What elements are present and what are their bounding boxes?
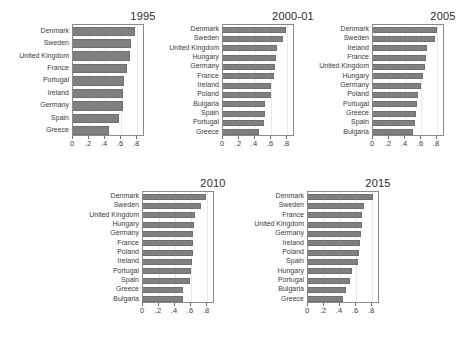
bar bbox=[223, 64, 275, 70]
y-axis-label: Hungary bbox=[72, 219, 139, 228]
y-axis-label: France bbox=[302, 52, 369, 61]
y-axis-label: Bulgaria bbox=[72, 294, 139, 303]
bar-row bbox=[223, 62, 293, 71]
bar bbox=[308, 203, 364, 209]
x-axis-tick-label: .6 bbox=[187, 307, 193, 315]
bar-row bbox=[373, 118, 443, 127]
x-axis-tick-label: .6 bbox=[117, 140, 123, 148]
x-axis-tick-label: .4 bbox=[336, 307, 342, 315]
y-axis-label: Poland bbox=[302, 89, 369, 98]
x-axis: 0.2.4.6.8 bbox=[372, 136, 444, 152]
bar-row bbox=[143, 201, 213, 210]
plot-wrapper: 0.2.4.6.8 bbox=[307, 191, 379, 319]
bar-row bbox=[308, 276, 378, 285]
x-axis-tick-label: .4 bbox=[171, 307, 177, 315]
bar-row bbox=[373, 128, 443, 136]
y-axis-label: Portugal bbox=[72, 266, 139, 275]
bar bbox=[223, 111, 265, 117]
y-axis-label: Spain bbox=[2, 111, 69, 123]
bar-row bbox=[143, 229, 213, 238]
bar bbox=[73, 27, 135, 36]
x-axis-tick-label: .8 bbox=[203, 307, 209, 315]
bar-row bbox=[308, 201, 378, 210]
panel-body: DenmarkSwedenIrelandFranceUnited Kingdom… bbox=[302, 24, 460, 152]
bar-row bbox=[308, 295, 378, 303]
y-axis-label: France bbox=[237, 210, 304, 219]
bar-row bbox=[308, 192, 378, 201]
bar-row bbox=[308, 220, 378, 229]
x-axis-tick-label: .6 bbox=[417, 140, 423, 148]
y-axis-label: Ireland bbox=[237, 238, 304, 247]
bar-row bbox=[308, 239, 378, 248]
y-axis-label: Poland bbox=[237, 247, 304, 256]
bar-row bbox=[373, 100, 443, 109]
bar-row bbox=[308, 285, 378, 294]
bar bbox=[373, 120, 415, 126]
x-axis-tick-label: .8 bbox=[433, 140, 439, 148]
bar-row bbox=[373, 25, 443, 34]
y-axis-label: Greece bbox=[152, 127, 219, 136]
y-axis-label: Portugal bbox=[302, 99, 369, 108]
y-axis-label: Denmark bbox=[2, 24, 69, 36]
bar bbox=[143, 203, 201, 209]
x-axis-tick-label: .6 bbox=[267, 140, 273, 148]
bar-row bbox=[223, 34, 293, 43]
bar-row bbox=[308, 248, 378, 257]
bar-row bbox=[223, 100, 293, 109]
bar bbox=[73, 39, 131, 48]
y-axis-label: France bbox=[2, 61, 69, 73]
bar-row bbox=[223, 72, 293, 81]
bar bbox=[223, 55, 276, 61]
panel-body: DenmarkSwedenFranceUnited KingdomGermany… bbox=[237, 191, 449, 319]
y-axis-label: Germany bbox=[2, 99, 69, 111]
bar-row bbox=[73, 50, 143, 62]
y-axis-label: Denmark bbox=[72, 191, 139, 200]
bar bbox=[223, 120, 264, 126]
multi-panel-bar-chart: 1995DenmarkSwedenUnited KingdomFrancePor… bbox=[0, 0, 460, 343]
bar bbox=[308, 296, 343, 302]
bar-row bbox=[223, 118, 293, 127]
bar bbox=[223, 73, 274, 79]
bar bbox=[143, 259, 192, 265]
bar-row bbox=[73, 25, 143, 37]
bar-row bbox=[308, 267, 378, 276]
y-axis-label: Sweden bbox=[72, 200, 139, 209]
bar bbox=[143, 194, 206, 200]
chart-panel: 2015DenmarkSwedenFranceUnited KingdomGer… bbox=[237, 177, 449, 319]
bar-row bbox=[223, 128, 293, 136]
plot-area bbox=[72, 24, 144, 136]
plot-area bbox=[142, 191, 214, 303]
y-axis-label: Bulgaria bbox=[152, 99, 219, 108]
x-axis-tick-label: .4 bbox=[401, 140, 407, 148]
bar bbox=[308, 268, 352, 274]
bar bbox=[308, 222, 362, 228]
y-axis-label: Bulgaria bbox=[302, 127, 369, 136]
bar bbox=[73, 101, 123, 110]
bar bbox=[373, 111, 416, 117]
y-axis-labels: DenmarkSwedenUnited KingdomHungaryGerman… bbox=[72, 191, 142, 303]
y-axis-label: United Kingdom bbox=[72, 210, 139, 219]
x-axis-tick-label: .2 bbox=[155, 307, 161, 315]
bar bbox=[143, 250, 193, 256]
x-axis-tick-label: .2 bbox=[320, 307, 326, 315]
bar-row bbox=[223, 25, 293, 34]
plot-area bbox=[372, 24, 444, 136]
bar-row bbox=[73, 87, 143, 99]
y-axis-label: Ireland bbox=[302, 43, 369, 52]
x-axis-tick-label: .4 bbox=[101, 140, 107, 148]
y-axis-label: Denmark bbox=[237, 191, 304, 200]
bar bbox=[308, 287, 346, 293]
bar-row bbox=[143, 211, 213, 220]
x-axis-tick-label: 0 bbox=[70, 140, 74, 148]
bar bbox=[143, 212, 195, 218]
y-axis-label: Germany bbox=[72, 228, 139, 237]
bar-row bbox=[373, 72, 443, 81]
bar bbox=[73, 114, 119, 123]
x-axis: 0.2.4.6.8 bbox=[142, 303, 214, 319]
y-axis-label: Spain bbox=[152, 108, 219, 117]
x-axis: 0.2.4.6.8 bbox=[222, 136, 294, 152]
y-axis-label: United Kingdom bbox=[2, 49, 69, 61]
bar-row bbox=[373, 90, 443, 99]
y-axis-labels: DenmarkSwedenUnited KingdomHungaryGerman… bbox=[152, 24, 222, 136]
y-axis-label: Hungary bbox=[302, 71, 369, 80]
